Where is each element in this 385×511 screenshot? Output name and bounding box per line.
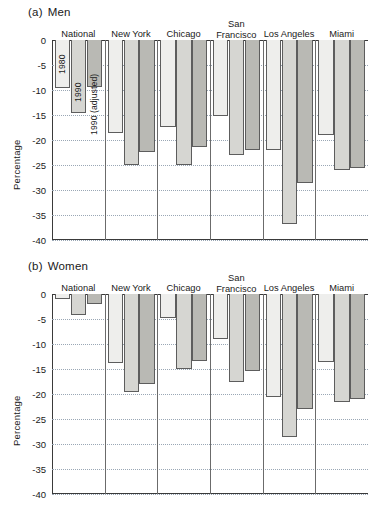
group-separator: [105, 294, 106, 494]
bar-los-angeles-1980: [266, 40, 281, 150]
group-separator: [263, 294, 264, 494]
y-tick-label: -40: [32, 235, 46, 246]
group-separator: [315, 294, 316, 494]
y-tick-label: -40: [32, 489, 46, 500]
bar-new-york-1990: [124, 294, 139, 392]
group-separator: [210, 40, 211, 240]
group-separator: [157, 40, 158, 240]
bar-chicago-1990: [176, 294, 191, 369]
panel-men-tag: (a): [28, 6, 43, 18]
bar-miami-1990-adjusted: [350, 40, 365, 168]
bar-national-1990: [71, 40, 86, 113]
y-tick-label: -10: [32, 339, 46, 350]
bar-miami-1980: [318, 294, 333, 362]
y-tick-label: -15: [32, 110, 46, 121]
panel-women-title: (b)Women: [28, 260, 88, 272]
group-separator: [210, 294, 211, 494]
bar-new-york-1990-adjusted: [139, 40, 154, 152]
panel-men-title: (a)Men: [28, 6, 71, 18]
bar-new-york-1990-adjusted: [139, 294, 154, 384]
panel-women-label: Women: [48, 260, 88, 272]
y-tick-label: -30: [32, 439, 46, 450]
bar-san-francisco-1990: [229, 40, 244, 155]
y-tick-label: -5: [38, 60, 46, 71]
plot-area-men: 0-5-10-15-20-25-30-35-40NationalNew York…: [52, 40, 368, 240]
bar-miami-1990-adjusted: [350, 294, 365, 399]
y-tick-label: -30: [32, 185, 46, 196]
bar-chicago-1980: [160, 294, 175, 318]
bar-san-francisco-1990: [229, 294, 244, 382]
gridline--40: [52, 240, 368, 241]
y-tick-label: -15: [32, 364, 46, 375]
legend-label-1990: 1990: [73, 82, 83, 102]
y-tick-label: -25: [32, 160, 46, 171]
y-tick-label: -25: [32, 414, 46, 425]
bar-san-francisco-1980: [213, 294, 228, 339]
group-header-miami: Miami: [307, 283, 376, 294]
legend-label-1980: 1980: [57, 54, 67, 74]
panel-men: (a)Men Percentage 0-5-10-15-20-25-30-35-…: [0, 0, 385, 256]
bar-miami-1990: [334, 294, 349, 402]
bar-san-francisco-1990-adjusted: [245, 294, 260, 371]
bar-chicago-1980: [160, 40, 175, 127]
bar-new-york-1990: [124, 40, 139, 165]
y-tick-label: -5: [38, 314, 46, 325]
bar-new-york-1980: [108, 40, 123, 133]
panel-women-tag: (b): [28, 260, 43, 272]
bar-san-francisco-1990-adjusted: [245, 40, 260, 150]
panel-women: (b)Women Percentage 0-5-10-15-20-25-30-3…: [0, 256, 385, 511]
y-axis-label-men: Percentage: [11, 139, 22, 190]
y-tick-label: -35: [32, 464, 46, 475]
group-separator: [315, 40, 316, 240]
y-tick-label: -35: [32, 210, 46, 221]
group-header-miami: Miami: [307, 29, 376, 40]
bar-chicago-1990-adjusted: [192, 294, 207, 361]
bar-miami-1980: [318, 40, 333, 135]
plot-area-women: 0-5-10-15-20-25-30-35-40NationalNew York…: [52, 294, 368, 494]
legend-label-1990-adjusted: 1990 (adjusted): [89, 74, 99, 135]
group-separator: [157, 294, 158, 494]
group-separator: [263, 40, 264, 240]
bar-los-angeles-1990-adjusted: [297, 294, 312, 409]
bar-miami-1990: [334, 40, 349, 170]
bar-national-1980: [55, 294, 70, 299]
y-axis-label-women: Percentage: [11, 395, 22, 446]
y-tick-label: -10: [32, 85, 46, 96]
group-separator: [105, 40, 106, 240]
bar-new-york-1980: [108, 294, 123, 363]
bar-los-angeles-1990: [282, 294, 297, 437]
panel-men-label: Men: [48, 6, 71, 18]
bar-los-angeles-1990-adjusted: [297, 40, 312, 183]
bar-los-angeles-1990: [282, 40, 297, 224]
bar-chicago-1990: [176, 40, 191, 165]
bar-san-francisco-1980: [213, 40, 228, 116]
bar-los-angeles-1980: [266, 294, 281, 397]
gridline--40: [52, 494, 368, 495]
y-tick-label: -20: [32, 135, 46, 146]
bar-national-1990: [71, 294, 86, 315]
bar-national-1990-adjusted: [87, 294, 102, 304]
y-tick-label: -20: [32, 389, 46, 400]
bar-chicago-1990-adjusted: [192, 40, 207, 147]
